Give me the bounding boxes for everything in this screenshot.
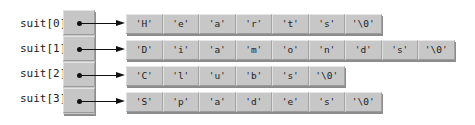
arrow-line-0 bbox=[80, 23, 118, 24]
char-cell: 't' bbox=[272, 14, 309, 34]
char-cell: 'i' bbox=[163, 40, 200, 60]
char-cell: 'r' bbox=[236, 14, 273, 34]
char-cell: 'm' bbox=[236, 40, 273, 60]
char-cell: 's' bbox=[309, 92, 346, 112]
char-cell: 's' bbox=[382, 40, 419, 60]
char-cell: 'u' bbox=[199, 66, 236, 86]
row-label-suit-3: suit[3] bbox=[20, 86, 62, 111]
char-array-row-2: 'C' 'l' 'u' 'b' 's' '\0' bbox=[126, 66, 345, 86]
arrow-line-3 bbox=[80, 101, 118, 102]
char-cell: 'H' bbox=[126, 14, 163, 34]
char-cell: 'D' bbox=[126, 40, 163, 60]
char-cell: 's' bbox=[272, 66, 309, 86]
char-cell: '\0' bbox=[345, 92, 382, 112]
pointer-array bbox=[63, 10, 95, 114]
char-cell: 'C' bbox=[126, 66, 163, 86]
char-cell: 'a' bbox=[199, 92, 236, 112]
char-cell: 'n' bbox=[309, 40, 346, 60]
arrowhead-icon bbox=[116, 72, 125, 78]
row-label-suit-2: suit[2] bbox=[20, 61, 62, 86]
arrow-line-1 bbox=[80, 49, 118, 50]
char-cell: 'l' bbox=[163, 66, 200, 86]
char-array-row-1: 'D' 'i' 'a' 'm' 'o' 'n' 'd' 's' '\0' bbox=[126, 40, 455, 60]
char-cell: 'o' bbox=[272, 40, 309, 60]
arrowhead-icon bbox=[116, 20, 125, 26]
char-cell: 'd' bbox=[236, 92, 273, 112]
char-cell: '\0' bbox=[345, 14, 382, 34]
char-cell: 's' bbox=[309, 14, 346, 34]
char-cell: '\0' bbox=[309, 66, 346, 86]
row-label-suit-0: suit[0] bbox=[20, 11, 62, 36]
row-label-suit-1: suit[1] bbox=[20, 36, 62, 61]
char-array-row-3: 'S' 'p' 'a' 'd' 'e' 's' '\0' bbox=[126, 92, 382, 112]
char-cell: 'S' bbox=[126, 92, 163, 112]
char-cell: 'a' bbox=[199, 14, 236, 34]
char-cell: 'e' bbox=[272, 92, 309, 112]
arrowhead-icon bbox=[116, 46, 125, 52]
char-cell: 'e' bbox=[163, 14, 200, 34]
char-cell: '\0' bbox=[418, 40, 455, 60]
char-cell: 'a' bbox=[199, 40, 236, 60]
char-cell: 'd' bbox=[345, 40, 382, 60]
char-cell: 'b' bbox=[236, 66, 273, 86]
arrow-line-2 bbox=[80, 75, 118, 76]
char-cell: 'p' bbox=[163, 92, 200, 112]
char-array-row-0: 'H' 'e' 'a' 'r' 't' 's' '\0' bbox=[126, 14, 382, 34]
arrowhead-icon bbox=[116, 98, 125, 104]
